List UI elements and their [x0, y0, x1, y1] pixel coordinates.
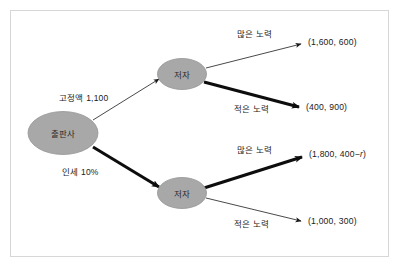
edge-contract-royalty: [93, 147, 159, 187]
author-top-label: 저자: [174, 70, 191, 80]
payoff-suffix: ): [363, 149, 366, 159]
edge-label-bottom-high-effort: 많은 노력: [237, 145, 272, 155]
payoff-bottom-high-effort: (1,800, 400−r): [309, 149, 366, 159]
payoff-prefix: (1,800, 400−: [309, 149, 360, 159]
edge-top-high-effort: [206, 44, 301, 68]
edge-bottom-high-effort: [204, 157, 302, 188]
node-publisher[interactable]: 출판사: [28, 112, 98, 155]
edge-label-contract-royalty: 인세 10%: [62, 167, 99, 177]
payoff-bottom-low-effort: (1,000, 300): [308, 216, 357, 226]
payoff-top-low-effort: (400, 900): [306, 102, 347, 112]
author-bottom-label: 저자: [174, 189, 191, 199]
edge-label-top-high-effort: 많은 노력: [237, 29, 272, 39]
edge-label-bottom-low-effort: 적은 노력: [234, 219, 269, 229]
edge-label-top-low-effort: 적은 노력: [234, 104, 269, 114]
publisher-label: 출판사: [51, 129, 76, 139]
figure-container: 출판사 저자 저자 고정액 1,100 인세 10% 많은 노력 적은 노력 많…: [0, 0, 403, 272]
node-author-bottom[interactable]: 저자: [158, 178, 207, 209]
game-tree-diagram: 출판사 저자 저자 고정액 1,100 인세 10% 많은 노력 적은 노력 많…: [0, 0, 403, 272]
edge-label-contract-fixed: 고정액 1,100: [59, 93, 109, 103]
payoff-top-high-effort: (1,600, 600): [308, 37, 357, 47]
node-author-top[interactable]: 저자: [158, 59, 207, 90]
edge-bottom-low-effort: [206, 198, 301, 221]
